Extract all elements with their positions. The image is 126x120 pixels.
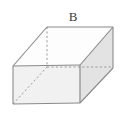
figure-label-container: B [0, 10, 126, 24]
geometry-figure: B [0, 0, 126, 120]
figure-label-b: B [69, 9, 78, 24]
front-face [13, 65, 80, 104]
